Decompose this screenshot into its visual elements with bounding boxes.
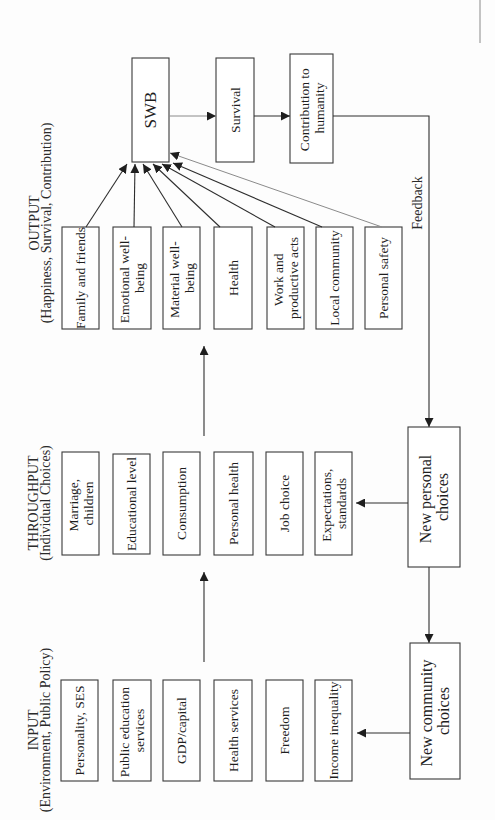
input-box-label: Health services <box>226 689 241 772</box>
throughput-box-label: Consumption <box>174 467 189 540</box>
output-to-swb-arrows <box>86 153 382 227</box>
new-personal-choices-line-1: New personal <box>417 454 435 543</box>
throughput-box-consumption: Consumption <box>163 452 200 555</box>
input-box-health-services: Health services <box>214 680 252 781</box>
contribution-line-2: humanity <box>312 82 327 133</box>
output-box-emotional-well-being: Emotional well- being <box>113 227 151 329</box>
input-box-personality-ses: Personality, SES <box>61 680 98 781</box>
throughput-box-label: Job choice <box>277 475 292 532</box>
output-box-family-and-friends: Family and friends <box>62 227 99 329</box>
throughput-box-line-1: Marriage, <box>66 479 81 532</box>
feedback-label: Feedback <box>410 176 425 230</box>
throughput-box-job-choice: Job choice <box>266 452 303 555</box>
output-box-label: Health <box>226 260 241 296</box>
input-subtitle: (Environment, Public Policy) <box>38 647 54 812</box>
throughput-box-line-1: Expectations, <box>319 469 334 542</box>
throughput-box-expectations-standards: Expectations, standards <box>315 452 352 555</box>
output-box-label: Family and friends <box>73 227 88 329</box>
output-box-personal-safety: Personal safety <box>365 227 402 329</box>
output-box-label: Personal safety <box>376 237 391 319</box>
input-box-public-education-services: Public education services <box>113 680 151 781</box>
output-box-work-and-productive-acts: Work and productive acts <box>267 227 304 329</box>
arrow-emotional-to-swb <box>134 164 135 227</box>
output-box-line-1: Material well- <box>167 241 182 318</box>
arrow-community-to-swb <box>173 163 322 227</box>
arrow-work-to-swb <box>162 164 275 227</box>
throughput-box-marriage-children: Marriage, children <box>62 452 99 555</box>
input-box-label: Personality, SES <box>72 686 87 776</box>
new-personal-choices-box: New personal choices <box>408 427 460 567</box>
swb-label: SWB <box>141 92 160 129</box>
swb-box: SWB <box>132 58 169 162</box>
output-box-line-2: productive acts <box>286 237 301 319</box>
input-box-label: Income inequality <box>326 681 341 779</box>
new-community-choices-box: New community choices <box>410 643 460 779</box>
input-box-gdp-capital: GDP/capital <box>163 680 200 781</box>
throughput-box-personal-health: Personal health <box>214 452 253 555</box>
diagram-canvas: SWB Survival Contribution to humanity Fe… <box>0 0 495 820</box>
arrow-family-to-swb <box>86 164 127 227</box>
new-community-choices-line-1: New community <box>418 659 436 766</box>
survival-box: Survival <box>216 58 254 162</box>
new-personal-choices-line-2: choices <box>434 473 451 521</box>
output-subtitle: (Happiness, Survival, Contribution) <box>39 122 55 323</box>
output-box-health: Health <box>214 227 252 329</box>
input-box-line-2: services <box>132 709 147 752</box>
output-box-line-1: Work and <box>271 253 286 306</box>
input-box-freedom: Freedom <box>266 680 303 781</box>
contribution-box: Contribution to humanity <box>290 54 333 163</box>
throughput-box-line-2: children <box>81 481 96 525</box>
output-box-local-community: Local community <box>316 227 353 329</box>
output-box-line-2: being <box>182 263 197 293</box>
arrow-safety-to-swb <box>170 153 382 227</box>
output-box-line-1: Emotional well- <box>117 236 132 324</box>
throughput-box-educational-level: Educational level <box>113 454 150 554</box>
contribution-line-1: Contribution to <box>297 68 312 151</box>
input-box-label: Freedom <box>277 706 292 754</box>
swb-input-output-diagram: SWB Survival Contribution to humanity Fe… <box>0 0 495 820</box>
throughput-box-label: Educational level <box>124 457 139 551</box>
throughput-box-line-2: standards <box>334 478 349 529</box>
input-box-line-1: Public education <box>117 687 132 778</box>
throughput-box-label: Personal health <box>226 462 241 545</box>
throughput-box-label: Marriage, children <box>66 475 96 531</box>
output-box-line-2: being <box>132 263 147 293</box>
new-community-choices-line-2: choices <box>435 687 452 735</box>
survival-label: Survival <box>228 87 243 133</box>
input-box-income-inequality: Income inequality <box>315 680 352 781</box>
output-box-material-well-being: Material well- being <box>163 227 200 329</box>
input-box-label: GDP/capital <box>174 697 189 764</box>
throughput-subtitle: (Individual Choices) <box>38 445 54 561</box>
output-box-label: Local community <box>327 230 342 326</box>
